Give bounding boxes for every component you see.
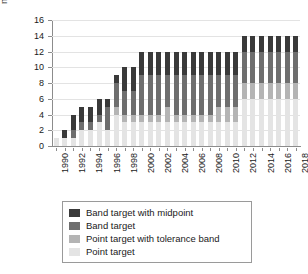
x-axis-tick <box>99 148 100 151</box>
x-axis-tick <box>262 148 263 151</box>
bar-segment <box>174 75 179 114</box>
bar <box>139 52 144 147</box>
x-axis-tick-label: 2004 <box>180 153 190 173</box>
bar-series-group <box>52 20 300 146</box>
bar-segment <box>97 99 102 115</box>
bar-segment <box>182 52 187 76</box>
bar-segment <box>233 75 238 107</box>
x-axis-tick-label: 2006 <box>197 153 207 173</box>
bar-segment <box>79 130 84 146</box>
bar-segment <box>233 122 238 146</box>
x-axis-tick-label: 2018 <box>300 153 308 173</box>
bar-segment <box>242 83 247 99</box>
bar-segment <box>259 52 264 84</box>
legend-swatch <box>69 248 80 256</box>
bar-segment <box>131 91 136 115</box>
bar <box>191 52 196 147</box>
bar <box>293 36 298 146</box>
bar-segment <box>131 122 136 146</box>
bar-segment <box>122 91 127 115</box>
bar-segment <box>199 75 204 114</box>
bar-segment <box>139 75 144 114</box>
stacked-bar-chart: number of countries 0246810121416 199019… <box>0 0 308 274</box>
x-axis-tick <box>296 148 297 151</box>
bar-segment <box>105 99 110 107</box>
x-axis-tick-label: 2014 <box>266 153 276 173</box>
x-axis-tick <box>219 148 220 151</box>
bar-segment <box>139 52 144 76</box>
bar-segment <box>71 138 76 146</box>
bar <box>122 67 127 146</box>
x-axis-tick <box>159 148 160 151</box>
bar-segment <box>191 122 196 146</box>
x-axis-tick <box>210 148 211 151</box>
bar-segment <box>62 138 67 146</box>
bar-segment <box>156 75 161 114</box>
x-axis-tick <box>270 148 271 151</box>
x-axis-tick <box>142 148 143 151</box>
bar-segment <box>114 75 119 83</box>
x-axis-tick <box>185 148 186 151</box>
x-axis-tick <box>108 148 109 151</box>
bar-segment <box>199 52 204 76</box>
bar-segment <box>97 122 102 146</box>
bar <box>199 52 204 147</box>
bar-segment <box>216 122 221 146</box>
legend-item: Band target <box>69 219 246 232</box>
bar-segment <box>62 130 67 138</box>
bar-segment <box>174 115 179 123</box>
legend-item: Point target with tolerance band <box>69 232 246 245</box>
bar-segment <box>259 83 264 99</box>
x-axis-tick <box>82 148 83 151</box>
x-axis-tick-label: 1994 <box>94 153 104 173</box>
bar-segment <box>225 75 230 107</box>
x-axis-tick <box>253 148 254 151</box>
x-axis-tick-label: 2010 <box>231 153 241 173</box>
bar-segment <box>191 75 196 114</box>
bar-segment <box>250 99 255 146</box>
bar-segment <box>88 107 93 123</box>
bar-segment <box>293 36 298 52</box>
y-axis-tick-label: 16 <box>0 16 44 25</box>
bar-segment <box>276 99 281 146</box>
x-axis-tick <box>176 148 177 151</box>
bar <box>174 52 179 147</box>
x-axis-tick-label: 1992 <box>77 153 87 173</box>
bar-segment <box>216 52 221 76</box>
bar-segment <box>148 52 153 76</box>
bar-segment <box>216 107 221 123</box>
bar-segment <box>276 52 281 84</box>
y-axis-tick-label: 12 <box>0 48 44 57</box>
bar-segment <box>131 115 136 123</box>
x-axis-tick <box>65 148 66 151</box>
bar-segment <box>268 83 273 99</box>
bar-segment <box>71 115 76 131</box>
bar-segment <box>71 130 76 138</box>
bar-segment <box>242 52 247 84</box>
bar-segment <box>208 75 213 114</box>
bar-segment <box>122 115 127 123</box>
x-axis-tick-label: 2002 <box>163 153 173 173</box>
chart-legend: Band target with midpointBand targetPoin… <box>62 201 252 263</box>
bar-segment <box>148 115 153 123</box>
x-axis-tick-label: 2012 <box>248 153 258 173</box>
bar-segment <box>79 107 84 123</box>
x-axis-tick-label: 1996 <box>112 153 122 173</box>
bar-segment <box>276 36 281 52</box>
bar-segment <box>233 52 238 76</box>
bar <box>250 36 255 146</box>
legend-item-label: Point target <box>86 247 135 257</box>
bar <box>259 36 264 146</box>
bar <box>242 36 247 146</box>
bar-segment <box>293 99 298 146</box>
x-axis-tick <box>287 148 288 151</box>
bar-segment <box>156 52 161 76</box>
bar <box>156 52 161 147</box>
bar-segment <box>114 115 119 147</box>
bar-segment <box>174 52 179 76</box>
bar <box>285 36 290 146</box>
bar-segment <box>268 99 273 146</box>
x-axis-tick <box>90 148 91 151</box>
x-axis-tick <box>125 148 126 151</box>
bar-segment <box>97 115 102 123</box>
